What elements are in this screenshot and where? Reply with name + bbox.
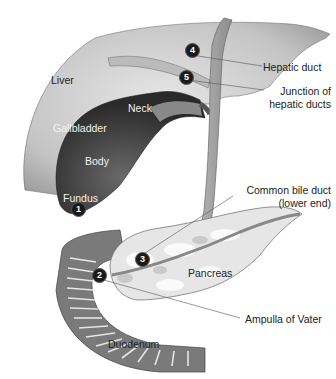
label-pancreas: Pancreas [188, 267, 232, 279]
marker-5-junction: 5 [179, 70, 194, 85]
label-junction-line2: hepatic ducts [252, 98, 331, 110]
label-ampulla: Ampulla of Vater [245, 313, 322, 325]
anatomy-diagram: Liver Neck Gallbladder Body Fundus Hepat… [0, 0, 336, 379]
label-gallbladder: Gallbladder [53, 122, 107, 134]
marker-4-hepatic-duct: 4 [185, 43, 200, 58]
label-junction-line1: Junction of [258, 85, 331, 97]
marker-1-fundus: 1 [71, 202, 86, 217]
label-cbd-line1: Common bile duct [232, 184, 331, 196]
label-duodenum: Duodenum [108, 338, 159, 350]
marker-3-common-bile-duct: 3 [135, 252, 150, 267]
label-liver: Liver [51, 74, 74, 86]
label-body: Body [85, 155, 109, 167]
label-neck: Neck [128, 102, 152, 114]
marker-2-ampulla: 2 [92, 268, 107, 283]
label-cbd-line2: (lower end) [232, 197, 331, 209]
label-hepatic-duct: Hepatic duct [263, 61, 321, 73]
